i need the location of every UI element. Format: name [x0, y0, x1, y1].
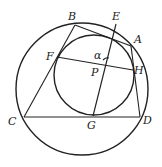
- label-f: F: [45, 50, 54, 63]
- segment-da: [131, 46, 140, 117]
- label-e: E: [111, 10, 120, 23]
- point-labels: A B C D E F G H P α: [8, 10, 152, 132]
- label-b: B: [67, 10, 76, 23]
- label-c: C: [8, 115, 17, 128]
- label-d: D: [142, 114, 152, 127]
- segment-bc: [24, 25, 75, 117]
- label-g: G: [87, 119, 96, 132]
- segment-ab: [75, 25, 131, 46]
- label-a: A: [133, 33, 142, 46]
- label-p: P: [90, 66, 99, 79]
- angle-arc: [103, 58, 109, 60]
- angle-alpha-label: α: [94, 49, 102, 62]
- geometry-diagram: A B C D E F G H P α: [0, 0, 162, 167]
- label-h: H: [133, 64, 144, 77]
- outer-circle: [16, 23, 148, 155]
